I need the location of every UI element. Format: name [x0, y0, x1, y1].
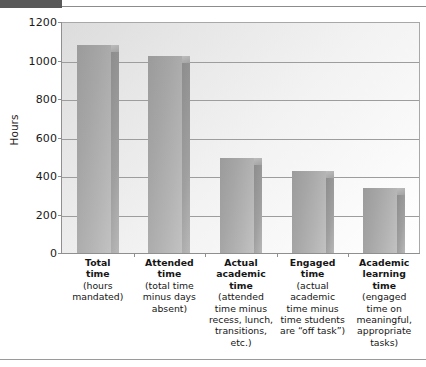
bar	[77, 45, 119, 253]
x-axis-label-detail-line: (engaged	[348, 291, 420, 302]
bar-top-cap	[254, 158, 262, 165]
x-axis-label-detail-line: appropriate	[348, 325, 420, 336]
x-axis-line	[61, 253, 420, 254]
x-axis-tick-mark	[277, 253, 278, 257]
bar-chart-figure: 120010008006004002000 Hours Totaltime(ho…	[0, 0, 426, 367]
x-axis-label-heading-line: time	[277, 268, 349, 279]
bar	[292, 171, 334, 253]
y-axis-tick-label: 200	[1, 208, 57, 221]
y-axis-tick-label: 1000	[1, 54, 57, 67]
x-axis-label: Attendedtime(total timeminus daysabsent)	[134, 257, 206, 314]
x-axis-label-detail-line: (actual	[277, 280, 349, 291]
x-axis-label-detail-line: absent)	[134, 303, 206, 314]
bar	[148, 56, 190, 253]
bar-top-cap	[326, 171, 334, 178]
x-axis-label: Totaltime(hoursmandated)	[62, 257, 134, 303]
x-axis-tick-mark	[205, 253, 206, 257]
y-axis-tick-mark	[58, 61, 62, 62]
x-axis-label-detail-line: etc.)	[205, 337, 277, 348]
bar-face	[363, 188, 397, 253]
x-axis-label-heading-line: time	[134, 268, 206, 279]
bar-face	[220, 158, 254, 253]
x-axis-tick-mark	[348, 253, 349, 257]
bar-side-shadow	[182, 63, 190, 253]
bar-face	[77, 45, 111, 253]
x-axis-labels: Totaltime(hoursmandated)Attendedtime(tot…	[62, 257, 420, 365]
bar-side-shadow	[254, 165, 262, 253]
y-axis-tick-mark	[58, 176, 62, 177]
x-axis-label-heading-line: learning	[348, 268, 420, 279]
x-axis-label-heading-line: time	[205, 280, 277, 291]
x-axis-label-detail-line: time minus	[205, 303, 277, 314]
bar-side-shadow	[397, 195, 405, 253]
y-axis-tick-mark	[58, 99, 62, 100]
x-axis-label-heading-line: Academic	[348, 257, 420, 268]
x-axis-label-detail-line: (total time	[134, 280, 206, 291]
y-axis-tick-label: 1200	[1, 16, 57, 29]
x-axis-tick-mark	[134, 253, 135, 257]
x-axis-label-detail-line: academic	[277, 291, 349, 302]
y-axis-tick-mark	[58, 253, 62, 254]
x-axis-label-detail-line: transitions,	[205, 325, 277, 336]
x-axis-label-detail-line: time on	[348, 303, 420, 314]
decorative-top-rule	[62, 6, 426, 7]
bar-top-cap	[182, 56, 190, 63]
x-axis-label-heading-line: Engaged	[277, 257, 349, 268]
x-axis-label: Engagedtime(actualacademictime minustime…	[277, 257, 349, 337]
x-axis-label-detail-line: time minus	[277, 303, 349, 314]
bar-top-cap	[111, 45, 119, 52]
x-axis-label-heading-line: Attended	[134, 257, 206, 268]
x-axis-label: Actualacademictime(attendedtime minusrec…	[205, 257, 277, 348]
y-axis-tick-label: 400	[1, 170, 57, 183]
bar-top-cap	[397, 188, 405, 195]
x-axis-label-detail-line: minus days	[134, 291, 206, 302]
x-axis-label-heading-line: time	[62, 268, 134, 279]
x-axis-label-detail-line: (hours	[62, 280, 134, 291]
x-axis-label-detail-line: mandated)	[62, 291, 134, 302]
bar	[220, 158, 262, 253]
y-axis-tick-mark	[58, 22, 62, 23]
x-axis-label-heading-line: Actual	[205, 257, 277, 268]
x-axis-label-detail-line: (attended	[205, 291, 277, 302]
x-axis-label-detail-line: time students	[277, 314, 349, 325]
y-axis-tick-label: 0	[1, 247, 57, 260]
bar-face	[148, 56, 182, 253]
x-axis-label-detail-line: meaningful,	[348, 314, 420, 325]
x-axis-label-heading-line: academic	[205, 268, 277, 279]
y-axis-ticks: 120010008006004002000	[0, 0, 57, 367]
x-axis-label-detail-line: recess, lunch,	[205, 314, 277, 325]
x-axis-label-detail-line: tasks)	[348, 337, 420, 348]
bar-side-shadow	[111, 52, 119, 253]
y-axis-title: Hours	[8, 100, 20, 160]
x-axis-label-heading-line: time	[348, 280, 420, 291]
y-axis-tick-mark	[58, 215, 62, 216]
bar-side-shadow	[326, 178, 334, 253]
bar	[363, 188, 405, 253]
bar-face	[292, 171, 326, 253]
y-axis-tick-mark	[58, 138, 62, 139]
x-axis-label: Academiclearningtime(engagedtime onmeani…	[348, 257, 420, 348]
decorative-bottom-rule	[0, 359, 426, 360]
x-axis-label-heading-line: Total	[62, 257, 134, 268]
x-axis-label-detail-line: are “off task”)	[277, 325, 349, 336]
